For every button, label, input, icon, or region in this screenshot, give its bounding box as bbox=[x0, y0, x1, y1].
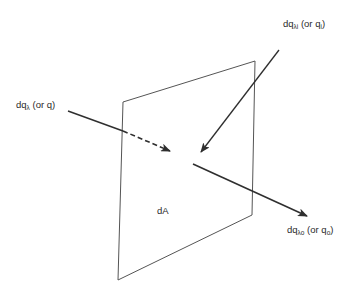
label-rest: (or q bbox=[304, 224, 326, 235]
incident-left-label: dqλ (or q) bbox=[16, 100, 55, 112]
label-rest: (or q) bbox=[30, 99, 55, 110]
surface-label: dA bbox=[157, 206, 169, 216]
label-main: dq bbox=[16, 99, 27, 110]
surface-plane bbox=[118, 61, 255, 280]
label-close: ) bbox=[330, 224, 333, 235]
surface-label-text: dA bbox=[157, 205, 169, 216]
incident-arrow-solid bbox=[68, 111, 123, 131]
outgoing-arrow bbox=[193, 164, 307, 216]
incident-top-label: dqλi (or qi) bbox=[283, 19, 325, 31]
diagram-canvas bbox=[0, 0, 356, 295]
label-close: ) bbox=[322, 18, 325, 29]
label-main: dq bbox=[287, 224, 298, 235]
outgoing-label: dqλo (or qo) bbox=[287, 225, 333, 237]
label-rest: (or q bbox=[298, 18, 320, 29]
incident-arrow-dashed bbox=[123, 131, 170, 151]
label-main: dq bbox=[283, 18, 294, 29]
